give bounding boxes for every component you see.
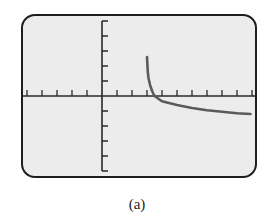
figure-caption: (a) — [0, 196, 274, 213]
graph-plot — [23, 16, 255, 176]
calculator-screen — [21, 14, 257, 178]
curve-curve — [147, 57, 251, 114]
